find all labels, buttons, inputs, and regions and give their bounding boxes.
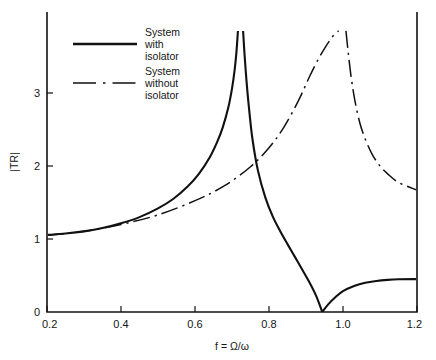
x-tick-label: 0.4 [113,318,128,330]
x-tick-label: 0.8 [261,318,276,330]
y-tick-label: 0 [34,306,40,318]
y-tick-label: 2 [34,160,40,172]
legend-label-with-isolator-line2: with [144,38,164,50]
legend-label-without-isolator-line2: without [144,77,178,89]
legend-label-without-isolator-line3: isolator [145,89,179,101]
legend-label-without-isolator-line1: System [145,65,180,77]
chart-figure: 0.20.40.60.81.01.2 0123 f = Ω/ω |TR| Sys… [0,0,436,360]
y-tick-label: 1 [34,233,40,245]
x-axis-label: f = Ω/ω [215,340,249,352]
x-tick-label: 1.0 [335,318,350,330]
transmissibility-chart: 0.20.40.60.81.01.2 0123 f = Ω/ω |TR| Sys… [0,0,436,360]
axis-frame [47,12,417,312]
data-curves [47,31,417,312]
curve-with-isolator [47,31,238,235]
legend-label-with-isolator-line3: isolator [145,50,179,62]
curve-without-isolator [346,31,417,190]
x-tick-label: 0.6 [187,318,202,330]
y-axis-label: |TR| [8,152,20,171]
legend: System with isolator System without isol… [73,26,180,101]
curve-with-isolator [322,279,417,312]
y-tick-label: 3 [34,87,40,99]
curve-without-isolator [47,31,339,235]
plot-frame [47,12,417,312]
x-tick-label: 0.2 [42,318,57,330]
x-axis-ticks: 0.20.40.60.81.01.2 [42,306,422,330]
legend-label-with-isolator-line1: System [145,26,180,38]
x-tick-label: 1.2 [407,318,422,330]
y-axis-ticks: 0123 [34,87,53,318]
